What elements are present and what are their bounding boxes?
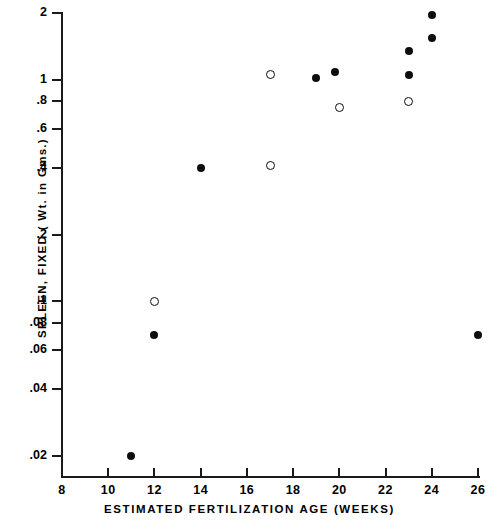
data-point-filled [331,68,339,76]
data-point-filled [428,34,436,42]
x-tick-label: 16 [227,483,267,497]
x-tick-mark [61,468,63,477]
y-tick-mark [52,12,61,14]
data-point-filled [405,71,413,79]
scatter-plot-figure: .02.04.06.08.1.2.4.6.812 810121416182022… [0,0,499,523]
data-point-open [335,103,344,112]
x-tick-label: 14 [181,483,221,497]
y-axis-line [61,12,63,478]
y-tick-mark [52,167,61,169]
y-axis-title: SPLEEN, FIXED ( Wt. in Gms.) [36,28,48,448]
y-tick-label: .02 [0,448,47,462]
x-axis-title: ESTIMATED FERTILIZATION AGE (WEEKS) [0,503,499,515]
data-point-filled [312,74,320,82]
y-tick-mark [52,100,61,102]
x-tick-mark [200,468,202,477]
x-tick-mark [246,468,248,477]
y-tick-label: 2 [0,5,47,19]
data-point-filled [127,452,135,460]
y-tick-mark [52,322,61,324]
y-tick-mark [52,234,61,236]
data-point-open [266,161,275,170]
data-point-filled [428,11,436,19]
x-tick-label: 22 [366,483,406,497]
x-tick-label: 10 [88,483,128,497]
x-tick-mark [292,468,294,477]
x-tick-mark [338,468,340,477]
x-tick-label: 18 [273,483,313,497]
data-point-filled [405,47,413,55]
x-tick-label: 24 [412,483,452,497]
x-tick-mark [477,468,479,477]
x-tick-mark [153,468,155,477]
data-point-filled [150,331,158,339]
x-axis-line [61,476,480,478]
y-tick-mark [52,300,61,302]
x-tick-mark [431,468,433,477]
data-point-open [150,297,159,306]
y-tick-mark [52,388,61,390]
y-tick-mark [52,349,61,351]
x-tick-label: 26 [458,483,498,497]
data-point-open [404,97,413,106]
x-tick-label: 12 [134,483,174,497]
x-tick-label: 20 [319,483,359,497]
x-tick-mark [107,468,109,477]
x-tick-label: 8 [42,483,82,497]
data-point-filled [197,164,205,172]
y-tick-mark [52,79,61,81]
y-tick-mark [52,128,61,130]
y-tick-mark [52,455,61,457]
data-point-open [266,70,275,79]
x-tick-mark [385,468,387,477]
data-point-filled [474,331,482,339]
